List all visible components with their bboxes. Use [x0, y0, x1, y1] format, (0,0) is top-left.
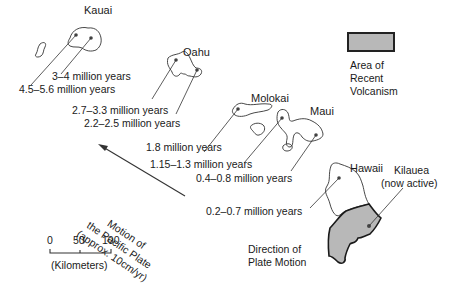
maui-age-2: 0.4–0.8 million years — [196, 172, 292, 184]
scale-tick-50: 50 — [73, 234, 85, 246]
kilauea-status: (now active) — [381, 177, 438, 189]
oahu-age-1: 2.7–3.3 million years — [72, 104, 168, 116]
maui-age-1: 1.15–1.3 million years — [150, 158, 252, 170]
kauai-label: Kauai — [84, 4, 112, 16]
legend-label: Area of Recent Volcanism — [350, 59, 398, 98]
hawaii-age: 0.2–0.7 million years — [206, 205, 302, 217]
scale-tick-0: 0 — [47, 234, 53, 246]
lanai-outline — [251, 123, 265, 135]
direction-label: Direction of Plate Motion — [248, 243, 306, 269]
legend-swatch — [347, 32, 395, 52]
molokai-label: Molokai — [251, 92, 289, 104]
kauai-outline — [68, 27, 101, 51]
molokai-age: 1.8 million years — [146, 141, 222, 153]
kahoolawe-outline — [283, 144, 292, 151]
scale-tick-100: 100 — [102, 234, 120, 246]
kauai-age-2: 4.5–5.6 million years — [19, 83, 115, 95]
niihau-outline — [35, 43, 45, 57]
kauai-age-1: 3–4 million years — [52, 70, 131, 82]
kilauea-label: Kilauea — [394, 164, 429, 176]
maui-label: Maui — [310, 105, 334, 117]
oahu-label: Oahu — [183, 46, 210, 58]
scale-unit: (Kilometers) — [51, 259, 108, 271]
oahu-age-2: 2.2–2.5 million years — [84, 117, 180, 129]
hawaii-label: Hawaii — [350, 162, 383, 174]
